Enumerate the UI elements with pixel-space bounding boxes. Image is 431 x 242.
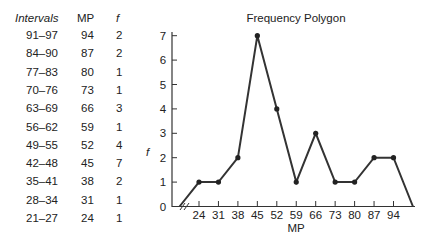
x-tick-label: 52	[270, 209, 283, 221]
x-tick-label: 24	[193, 209, 206, 221]
data-point	[235, 155, 240, 160]
data-points	[196, 33, 396, 185]
x-ticks: 2431384552596673808794	[193, 201, 401, 221]
y-tick-label: 2	[160, 152, 166, 164]
chart-title: Frequency Polygon	[246, 12, 345, 24]
data-point	[352, 180, 357, 185]
x-tick-label: 80	[348, 209, 361, 221]
data-point	[196, 180, 201, 185]
y-tick-label: 0	[160, 201, 166, 213]
x-tick-label: 73	[329, 209, 342, 221]
y-tick-label: 6	[160, 54, 166, 66]
data-point	[313, 131, 318, 136]
data-point	[274, 106, 279, 111]
x-tick-label: 59	[290, 209, 303, 221]
data-point	[371, 155, 376, 160]
y-tick-label: 1	[160, 176, 166, 188]
data-point	[333, 180, 338, 185]
x-tick-label: 94	[387, 209, 400, 221]
y-tick-label: 3	[160, 127, 166, 139]
frequency-polygon-chart: Frequency Polygon f MP 01234567 24313845…	[0, 0, 431, 242]
x-axis-label: MP	[287, 222, 305, 234]
y-tick-label: 4	[160, 103, 167, 115]
x-tick-label: 66	[309, 209, 322, 221]
y-ticks: 01234567	[160, 30, 177, 213]
data-point	[255, 33, 260, 38]
x-tick-label: 87	[368, 209, 381, 221]
x-tick-label: 38	[232, 209, 245, 221]
data-point	[216, 180, 221, 185]
data-point	[294, 180, 299, 185]
y-axis-label: f	[146, 146, 151, 158]
x-tick-label: 31	[212, 209, 225, 221]
y-tick-label: 5	[160, 79, 166, 91]
x-tick-label: 45	[251, 209, 264, 221]
data-point	[391, 155, 396, 160]
y-tick-label: 7	[160, 30, 166, 42]
